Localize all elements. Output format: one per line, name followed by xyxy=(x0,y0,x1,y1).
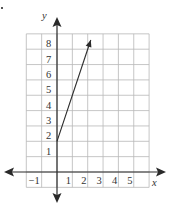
y-tick-label: 2 xyxy=(46,130,51,141)
x-tick-label: 5 xyxy=(127,175,132,186)
line-arrowhead-icon xyxy=(86,40,92,48)
corner-mark xyxy=(1,7,3,9)
x-tick-label: 3 xyxy=(97,175,102,186)
grid xyxy=(26,34,149,188)
y-tick-label: 1 xyxy=(46,146,51,157)
x-tick-label: −1 xyxy=(29,175,40,186)
coordinate-plane: −11234512345678 y x xyxy=(0,0,175,211)
y-tick-label: 3 xyxy=(46,115,51,126)
y-tick-label: 8 xyxy=(46,38,51,49)
y-tick-label: 4 xyxy=(46,100,52,111)
y-tick-label: 5 xyxy=(46,84,51,95)
y-axis-label: y xyxy=(41,10,47,21)
y-tick-label: 6 xyxy=(46,69,51,80)
x-tick-label: 4 xyxy=(112,175,118,186)
x-tick-label: 2 xyxy=(81,175,86,186)
x-tick-label: 1 xyxy=(66,175,71,186)
x-axis-label: x xyxy=(151,177,157,188)
tick-labels: −11234512345678 xyxy=(29,38,133,186)
y-tick-label: 7 xyxy=(46,54,51,65)
